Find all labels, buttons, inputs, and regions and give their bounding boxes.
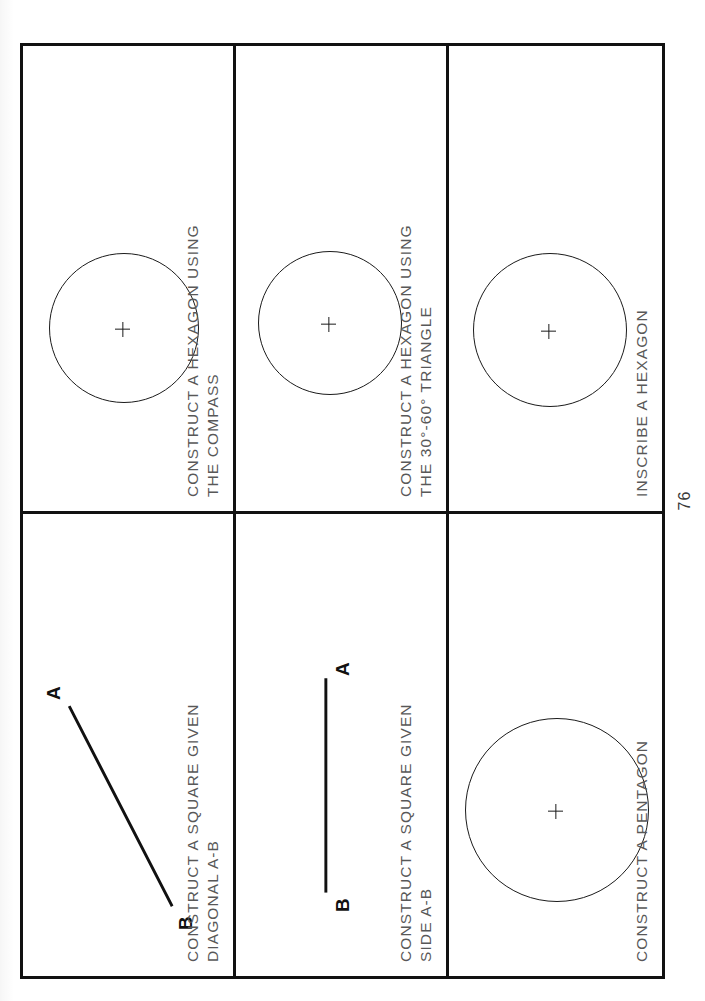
panel-caption: CONSTRUCT A SQUARE GIVEN DIAGONAL A-B bbox=[183, 703, 223, 962]
circle-center-mark-icon bbox=[321, 317, 336, 332]
point-label-a: A bbox=[43, 686, 65, 700]
page-number: 76 bbox=[676, 0, 694, 1001]
panel-construct-square-given-diagonal[interactable]: A B CONSTRUCT A SQUARE GIVEN DIAGONAL A-… bbox=[23, 511, 236, 976]
figure-circle-pentagon bbox=[449, 514, 662, 976]
panel-construct-hexagon-compass[interactable]: CONSTRUCT A HEXAGON USING THE COMPASS bbox=[23, 46, 236, 511]
segment-ab-diagonal bbox=[70, 707, 172, 904]
panel-caption: CONSTRUCT A HEXAGON USING THE 30°-60° TR… bbox=[396, 224, 436, 497]
panel-construct-pentagon[interactable]: CONSTRUCT A PENTAGON bbox=[449, 511, 662, 976]
worksheet-sheet: A B CONSTRUCT A SQUARE GIVEN DIAGONAL A-… bbox=[0, 0, 705, 1001]
panel-caption: INSCRIBE A HEXAGON bbox=[632, 309, 652, 497]
circle-center-mark-icon bbox=[548, 804, 563, 819]
panel-construct-hexagon-triangle[interactable]: CONSTRUCT A HEXAGON USING THE 30°-60° TR… bbox=[236, 46, 449, 511]
point-label-a: A bbox=[332, 662, 354, 676]
panel-construct-square-given-side[interactable]: A B CONSTRUCT A SQUARE GIVEN SIDE A-B bbox=[236, 511, 449, 976]
panel-caption: CONSTRUCT A SQUARE GIVEN SIDE A-B bbox=[396, 703, 436, 962]
panel-caption: CONSTRUCT A HEXAGON USING THE COMPASS bbox=[183, 224, 223, 497]
figure-circle-inscribe bbox=[449, 46, 662, 511]
panel-caption: CONSTRUCT A PENTAGON bbox=[632, 740, 652, 962]
circle-center-mark-icon bbox=[541, 324, 556, 339]
circle-center-mark-icon bbox=[115, 322, 130, 337]
point-label-b: B bbox=[332, 898, 354, 912]
exercise-grid: A B CONSTRUCT A SQUARE GIVEN DIAGONAL A-… bbox=[20, 43, 665, 979]
panel-inscribe-hexagon[interactable]: INSCRIBE A HEXAGON bbox=[449, 46, 662, 511]
sheet-rotation-wrapper: A B CONSTRUCT A SQUARE GIVEN DIAGONAL A-… bbox=[0, 0, 705, 1001]
